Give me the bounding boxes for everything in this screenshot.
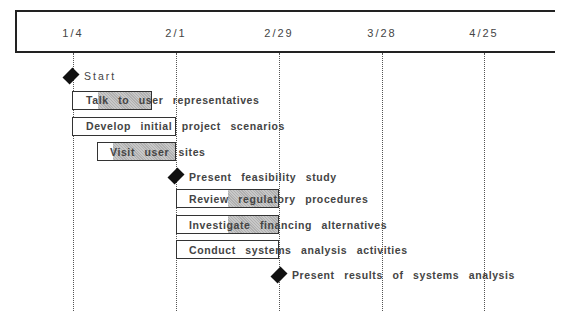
tick-label: 3/28 [367, 27, 396, 39]
task-label: Visit user sites [110, 146, 206, 158]
milestone-diamond-icon [63, 68, 80, 85]
tick-label: 2/29 [264, 27, 293, 39]
milestone-label: Present results of systems analysis [292, 269, 515, 281]
task-label: Talk to user representatives [86, 94, 260, 106]
task-label: Review regulatory procedures [189, 193, 368, 205]
milestone-diamond-icon [168, 168, 185, 185]
task-label: Conduct systems analysis activities [189, 244, 408, 256]
tick-label: 4/25 [469, 27, 498, 39]
header-top-rule [15, 10, 555, 12]
tick-label: 2/1 [165, 27, 186, 39]
milestone-label: Present feasibility study [189, 171, 337, 183]
header-left-rule [15, 10, 17, 53]
task-label: Develop initial project scenarios [86, 120, 285, 132]
milestone-label: Start [84, 70, 116, 82]
tick-label: 1/4 [62, 27, 83, 39]
milestone-diamond-icon [271, 267, 288, 284]
task-label: Investigate financing alternatives [189, 219, 387, 231]
header-bottom-rule [15, 51, 555, 53]
